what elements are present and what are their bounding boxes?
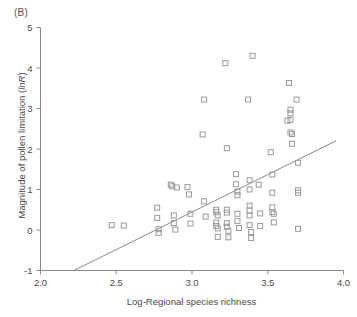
data-point-group [109, 53, 300, 240]
x-axis-label: Log-Regional species richness [40, 296, 343, 307]
data-point [247, 178, 252, 183]
y-axis-label-tail: ) [16, 72, 27, 75]
data-point [256, 182, 261, 187]
data-point [215, 213, 220, 218]
data-point [188, 221, 193, 226]
data-point [203, 214, 208, 219]
data-point [249, 230, 254, 235]
data-point [289, 141, 294, 146]
data-point [247, 223, 252, 228]
data-point [289, 132, 294, 137]
y-tick-label: 3 [27, 103, 32, 114]
data-point [215, 234, 220, 239]
data-point [288, 107, 293, 112]
data-point [235, 193, 240, 198]
data-point [258, 223, 263, 228]
data-point [233, 182, 238, 187]
y-axis-label-text: Magnitude of pollen limitation ( [16, 90, 27, 219]
data-point [246, 97, 251, 102]
x-tick-label: 3.5 [261, 277, 274, 288]
data-point [249, 236, 254, 241]
y-axis-ticks: -1012345 [24, 22, 40, 276]
data-point [233, 172, 238, 177]
data-point [247, 187, 252, 192]
data-point [247, 203, 252, 208]
data-point [155, 215, 160, 220]
data-point [173, 227, 178, 232]
x-axis-ticks: 2.02.53.03.54.0 [34, 271, 350, 288]
data-point [202, 97, 207, 102]
data-point [235, 219, 240, 224]
data-point [200, 132, 205, 137]
data-point [250, 53, 255, 58]
y-tick-label: 0 [27, 225, 32, 236]
y-tick-label: 1 [27, 184, 32, 195]
data-point [109, 223, 114, 228]
data-point [185, 185, 190, 190]
y-tick-label: 4 [27, 63, 32, 74]
data-point [224, 146, 229, 151]
data-point [296, 226, 301, 231]
data-point [168, 182, 173, 187]
data-point [288, 111, 293, 116]
data-point [224, 221, 229, 226]
data-point [202, 199, 207, 204]
data-point [247, 208, 252, 213]
y-tick-label: 2 [27, 144, 32, 155]
data-point [271, 211, 276, 216]
data-point [236, 225, 241, 230]
x-tick-label: 4.0 [337, 277, 350, 288]
scatter-plot-canvas: -1012345 2.02.53.03.54.0 [0, 0, 357, 317]
data-point [171, 213, 176, 218]
y-tick-label: -1 [24, 265, 32, 276]
data-point [270, 205, 275, 210]
data-point [247, 213, 252, 218]
x-tick-label: 2.5 [110, 277, 123, 288]
data-point [156, 230, 161, 235]
x-tick-label: 3.0 [185, 277, 198, 288]
data-point [271, 220, 276, 225]
x-tick-label: 2.0 [34, 277, 47, 288]
data-point [286, 80, 291, 85]
y-axis-label: Magnitude of pollen limitation (lnR) [16, 31, 27, 261]
data-point [268, 150, 273, 155]
y-tick-label: 5 [27, 22, 32, 33]
data-point [226, 235, 231, 240]
figure-panel-b: (B) Magnitude of pollen limitation (lnR)… [0, 0, 357, 317]
panel-label: (B) [14, 7, 28, 18]
data-point [214, 220, 219, 225]
data-point [258, 211, 263, 216]
data-point [288, 130, 293, 135]
data-point [186, 192, 191, 197]
data-point [294, 97, 299, 102]
data-point [223, 61, 228, 66]
data-point [270, 210, 275, 215]
y-axis-label-italic: lnR [16, 76, 27, 90]
data-point [155, 205, 160, 210]
data-point [270, 190, 275, 195]
data-point [121, 223, 126, 228]
data-point [235, 211, 240, 216]
